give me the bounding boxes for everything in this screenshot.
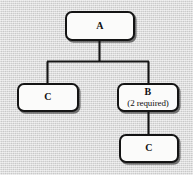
node-c-left-label: C xyxy=(44,92,51,103)
node-a-label: A xyxy=(96,21,103,32)
diagram-canvas: A C B (2 required) C xyxy=(0,0,193,175)
node-c-bottom-label: C xyxy=(145,143,152,154)
node-c-bottom[interactable]: C xyxy=(119,134,179,163)
node-a[interactable]: A xyxy=(65,11,135,41)
node-c-left[interactable]: C xyxy=(17,83,79,112)
node-b-sublabel: (2 required) xyxy=(127,99,169,108)
node-b-label: B xyxy=(145,87,152,98)
node-b[interactable]: B (2 required) xyxy=(117,83,179,112)
